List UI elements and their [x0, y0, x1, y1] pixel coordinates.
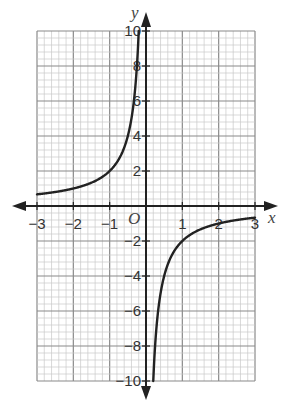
x-axis-left-arrow-icon [12, 201, 26, 211]
y-tick-label: −6 [124, 302, 141, 319]
origin-label: O [128, 209, 140, 228]
x-tick-label: 1 [178, 215, 186, 232]
y-axis-down-arrow-icon [141, 386, 151, 400]
y-tick-label: −4 [124, 267, 141, 284]
x-tick-label: −2 [65, 215, 82, 232]
axes [12, 12, 278, 400]
hyperbola-graph: −3−2−1123108642−2−4−6−8−10 x y O [0, 0, 282, 404]
x-axis-label: x [267, 208, 276, 227]
y-tick-label: −10 [116, 372, 141, 389]
x-tick-label: −1 [101, 215, 118, 232]
x-tick-label: −3 [28, 215, 45, 232]
y-tick-label: −8 [124, 337, 141, 354]
y-axis-label: y [129, 3, 139, 22]
y-tick-label: 2 [133, 162, 141, 179]
y-axis-up-arrow-icon [141, 12, 151, 27]
y-tick-label: −2 [124, 232, 141, 249]
y-tick-label: 4 [133, 127, 141, 144]
